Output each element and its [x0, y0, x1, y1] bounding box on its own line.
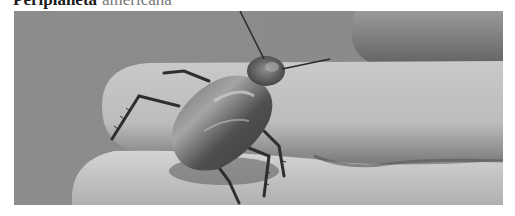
caption-species: americana — [102, 0, 172, 9]
image-caption: Periplanetaamericana — [13, 0, 172, 10]
cockroach-photo — [14, 11, 503, 205]
caption-genus: Periplaneta — [13, 0, 97, 9]
